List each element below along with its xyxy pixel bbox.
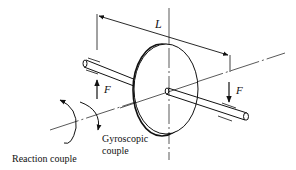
gyroscopic-couple-label-1: Gyroscopic	[102, 133, 149, 144]
gyroscopic-couple-arrow	[80, 102, 99, 130]
force-right-label: F	[235, 84, 243, 96]
force-left-label: F	[103, 83, 111, 95]
force-left: F	[97, 80, 111, 99]
reaction-couple-arrow	[60, 100, 76, 143]
force-right: F	[229, 82, 243, 102]
rotor-disc	[120, 44, 198, 136]
gyroscopic-couple-label-2: couple	[102, 145, 129, 156]
length-label: L	[154, 17, 162, 31]
reaction-couple-label: Reaction couple	[12, 153, 77, 164]
gyroscope-diagram: L F F Gyroscopic couple Reaction couple	[0, 0, 296, 170]
left-shaft	[83, 58, 136, 86]
